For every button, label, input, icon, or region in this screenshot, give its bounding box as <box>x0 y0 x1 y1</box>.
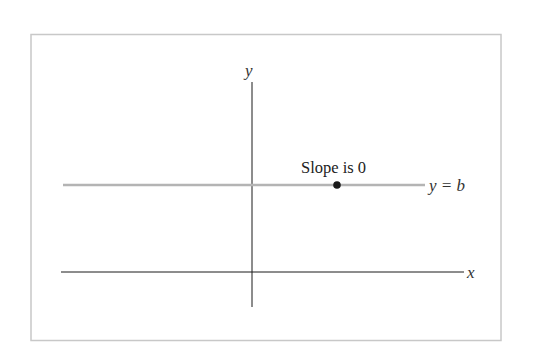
x-axis-label: x <box>466 263 475 282</box>
point-on-line <box>333 181 341 189</box>
slope-zero-diagram: y x y = b Slope is 0 <box>0 0 536 357</box>
line-equation-label: y = b <box>427 176 465 195</box>
y-axis-label: y <box>243 61 253 80</box>
slope-annotation: Slope is 0 <box>301 158 366 177</box>
